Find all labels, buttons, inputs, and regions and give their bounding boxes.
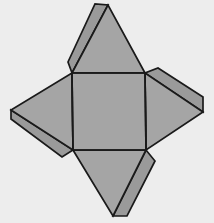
pyramid-net-figure (0, 0, 214, 223)
net-diagram-svg (0, 0, 214, 223)
fold-line-right (145, 73, 146, 150)
base-square (72, 73, 146, 150)
fold-line-left (72, 73, 73, 150)
